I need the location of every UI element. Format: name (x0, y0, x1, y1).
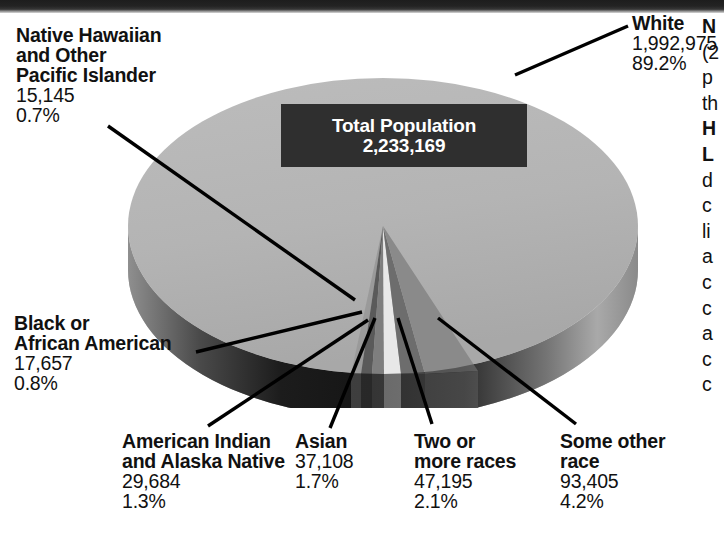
label-aian-line1: American Indian (122, 432, 285, 452)
label-black-percent: 0.8% (14, 374, 172, 394)
label-nhpi-line2: and Other (16, 46, 161, 66)
side-column-line-4: th (702, 91, 724, 117)
label-two-percent: 2.1% (414, 492, 516, 512)
label-nhpi-value: 15,145 (16, 86, 161, 106)
side-column-line-15: c (702, 372, 724, 398)
label-some-other-race: Some other race 93,405 4.2% (560, 432, 665, 512)
side-column-line-1: N (702, 14, 724, 40)
label-asian: Asian 37,108 1.7% (295, 432, 353, 492)
label-other-line2: race (560, 452, 665, 472)
side-column-line-7: d (702, 168, 724, 194)
chart-canvas: Total Population 2,233,169 Native Hawaii… (0, 0, 724, 538)
label-black-value: 17,657 (14, 354, 172, 374)
label-nhpi-line1: Native Hawaiian (16, 26, 161, 46)
clipped-side-text-column: N(2pthHLdcliaccacc (702, 14, 724, 414)
label-other-value: 93,405 (560, 472, 665, 492)
label-nhpi-percent: 0.7% (16, 106, 161, 126)
side-column-line-5: H (702, 116, 724, 142)
label-two-value: 47,195 (414, 472, 516, 492)
total-population-label: Total Population (332, 116, 476, 136)
label-asian-percent: 1.7% (295, 472, 353, 492)
label-asian-value: 37,108 (295, 452, 353, 472)
scan-artifact-bar-edge (0, 9, 724, 13)
side-column-line-8: c (702, 193, 724, 219)
side-column-line-10: a (702, 244, 724, 270)
label-black-african-american: Black or African American 17,657 0.8% (14, 314, 172, 394)
label-nhpi-line3: Pacific Islander (16, 66, 161, 86)
label-two-line1: Two or (414, 432, 516, 452)
label-aian-value: 29,684 (122, 472, 285, 492)
total-population-value: 2,233,169 (363, 136, 446, 156)
side-column-line-13: a (702, 321, 724, 347)
total-population-callout: Total Population 2,233,169 (281, 104, 527, 167)
label-black-line2: African American (14, 334, 172, 354)
label-aian-percent: 1.3% (122, 492, 285, 512)
side-column-line-3: p (702, 65, 724, 91)
label-aian-line2: and Alaska Native (122, 452, 285, 472)
side-column-line-2: (2 (702, 40, 724, 66)
label-two-line2: more races (414, 452, 516, 472)
label-two-or-more-races: Two or more races 47,195 2.1% (414, 432, 516, 512)
label-native-hawaiian-pacific-islander: Native Hawaiian and Other Pacific Island… (16, 26, 161, 125)
label-other-line1: Some other (560, 432, 665, 452)
label-american-indian-alaska-native: American Indian and Alaska Native 29,684… (122, 432, 285, 512)
side-column-line-9: li (702, 219, 724, 245)
side-column-line-12: c (702, 296, 724, 322)
label-asian-line1: Asian (295, 432, 353, 452)
label-black-line1: Black or (14, 314, 172, 334)
pie-chart-3d (118, 38, 648, 408)
side-column-line-11: c (702, 270, 724, 296)
label-other-percent: 4.2% (560, 492, 665, 512)
side-column-line-6: L (702, 142, 724, 168)
side-column-line-14: c (702, 347, 724, 373)
